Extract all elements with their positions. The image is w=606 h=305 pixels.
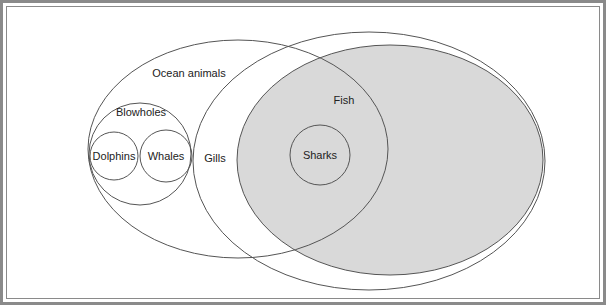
euler-diagram: Ocean animals Fish Blowholes Dolphins Wh… [0, 0, 606, 305]
blowholes-label: Blowholes [116, 106, 167, 118]
gills-label: Gills [204, 152, 226, 164]
dolphins-label: Dolphins [93, 150, 136, 162]
sharks-label: Sharks [303, 149, 338, 161]
fish-set-ellipse [237, 45, 543, 275]
ocean-animals-label: Ocean animals [152, 67, 226, 79]
whales-label: Whales [148, 150, 185, 162]
fish-label: Fish [334, 94, 355, 106]
